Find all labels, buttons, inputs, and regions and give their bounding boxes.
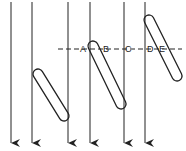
label-e: E — [159, 44, 165, 54]
label-a: A — [80, 44, 86, 54]
label-c: C — [125, 44, 132, 54]
diagram-canvas: A B C D E — [0, 0, 186, 151]
label-d: D — [147, 44, 154, 54]
capsule-1 — [31, 67, 71, 123]
capsules — [31, 13, 184, 123]
label-b: B — [103, 44, 109, 54]
vertical-arrows — [11, 2, 145, 143]
